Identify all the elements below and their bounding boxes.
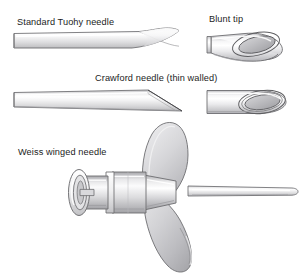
- label-standard-tuohy-needle: Standard Tuohy needle: [17, 18, 114, 27]
- label-blunt-tip: Blunt tip: [209, 15, 243, 24]
- standard-tuohy-needle-drawing: [14, 28, 179, 48]
- label-weiss-winged-needle: Weiss winged needle: [18, 148, 107, 157]
- crawford-tip-detail-drawing: [207, 88, 287, 117]
- label-crawford-needle: Crawford needle (thin walled): [95, 74, 217, 83]
- epidural-needle-figure: Standard Tuohy needle Blunt tip Crawford…: [0, 0, 304, 276]
- weiss-winged-needle-drawing: [69, 122, 299, 272]
- crawford-needle-drawing: [14, 90, 182, 111]
- needle-illustration-svg: [0, 0, 304, 276]
- blunt-tip-detail-drawing: [207, 28, 282, 62]
